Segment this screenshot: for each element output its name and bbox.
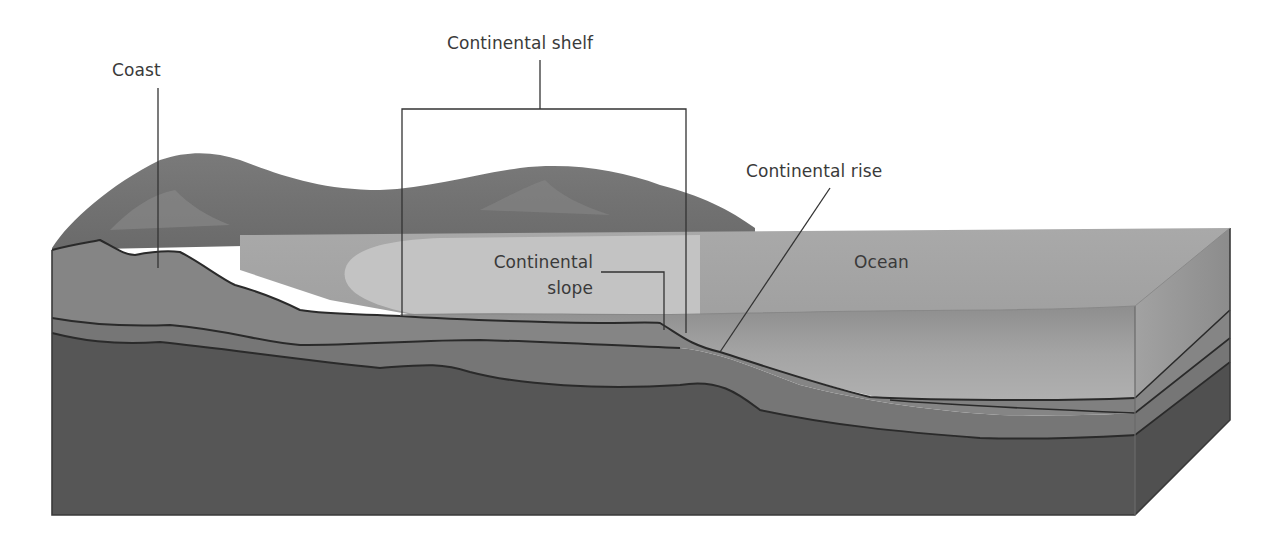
label-coast: Coast: [112, 60, 161, 80]
continental-margin-diagram: [0, 0, 1286, 548]
label-continental-rise: Continental rise: [746, 161, 882, 181]
shallow-water: [345, 235, 700, 318]
label-continental-slope-line2: slope: [469, 278, 593, 298]
label-ocean: Ocean: [854, 252, 909, 272]
label-continental-shelf: Continental shelf: [447, 33, 593, 53]
label-continental-slope-line1: Continental: [469, 252, 593, 272]
